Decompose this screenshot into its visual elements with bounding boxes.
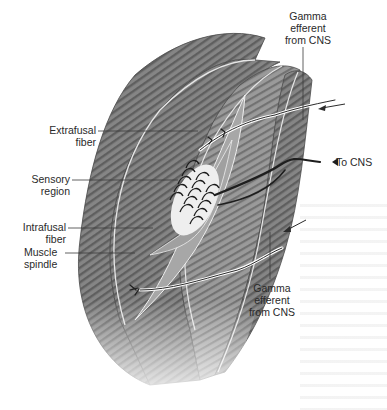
label-line: fiber — [0, 233, 66, 245]
label-line: region — [0, 185, 70, 197]
label-line: Gamma — [244, 282, 300, 294]
label-gamma-efferent-top: Gamma efferent from CNS — [280, 10, 336, 46]
label-muscle-spindle: Muscle spindle — [24, 246, 84, 270]
label-line: fiber — [20, 136, 96, 148]
label-extrafusal-fiber: Extrafusal fiber — [20, 124, 96, 148]
label-line: Extrafusal — [20, 124, 96, 136]
tendon-region — [80, 300, 260, 392]
label-line: efferent — [244, 294, 300, 306]
arrow-in-top-icon — [318, 105, 326, 111]
label-line: Muscle — [24, 246, 84, 258]
label-intrafusal-fiber: Intrafusal fiber — [0, 221, 66, 245]
label-line: spindle — [24, 258, 84, 270]
label-to-cns: To CNS — [336, 156, 386, 168]
label-line: from CNS — [280, 34, 336, 46]
muscle-spindle-illustration — [0, 0, 387, 410]
label-line: Gamma — [280, 10, 336, 22]
label-line: Sensory — [0, 173, 70, 185]
label-sensory-region: Sensory region — [0, 173, 70, 197]
label-gamma-efferent-bottom: Gamma efferent from CNS — [244, 282, 300, 318]
label-line: efferent — [280, 22, 336, 34]
label-line: from CNS — [244, 306, 300, 318]
label-line: Intrafusal — [0, 221, 66, 233]
